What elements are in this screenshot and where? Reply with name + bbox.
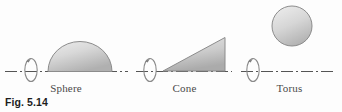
sphere-generating-region	[48, 42, 112, 72]
figure-container: Sphere Cone	[0, 0, 342, 112]
cone-diagram	[132, 0, 237, 112]
panel-cone: Cone	[132, 0, 237, 112]
torus-label: Torus	[237, 82, 342, 94]
rotation-ellipse-icon	[144, 59, 156, 82]
torus-diagram	[237, 0, 342, 112]
torus-generating-region	[272, 6, 312, 46]
sphere-label: Sphere	[0, 82, 132, 94]
figure-caption: Fig. 5.14	[5, 96, 48, 108]
cone-generating-region	[163, 38, 225, 72]
cone-label: Cone	[132, 82, 237, 94]
rotation-ellipse-icon	[247, 59, 259, 82]
panel-torus: Torus	[237, 0, 342, 112]
rotation-ellipse-icon	[25, 59, 37, 82]
